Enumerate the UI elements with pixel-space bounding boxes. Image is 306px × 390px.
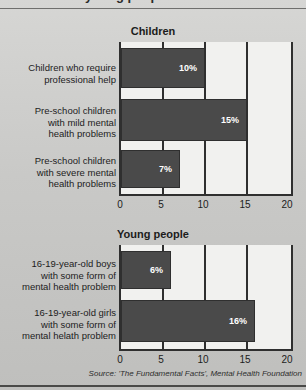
label-line: with some form of xyxy=(0,270,116,282)
top-divider xyxy=(0,8,306,9)
label-line: with mild mental xyxy=(0,117,116,129)
x-tick-label: 20 xyxy=(281,199,292,210)
bar-children-0: 10% xyxy=(121,48,205,88)
x-tick-label: 15 xyxy=(239,199,250,210)
cut-off-headline: children and young people xyxy=(0,0,306,8)
x-axis-children: 0 5 10 15 20 xyxy=(119,199,293,213)
category-label-children-2: Pre-school children with severe mental h… xyxy=(0,155,116,190)
plot-area-children: 10% 15% 7% xyxy=(119,42,293,196)
x-tick-label: 0 xyxy=(117,354,123,365)
category-label-children-1: Pre-school children with mild mental hea… xyxy=(0,105,116,140)
label-line: with severe mental xyxy=(0,167,116,179)
source-note: Source: 'The Fundamental Facts', Mental … xyxy=(89,369,302,378)
label-line: Children who require xyxy=(0,62,116,74)
label-line: 16-19-year-old boys xyxy=(0,258,116,270)
label-line: professional help xyxy=(0,74,116,86)
label-line: health problems xyxy=(0,128,116,140)
x-tick-label: 10 xyxy=(197,199,208,210)
bar-young-1: 16% xyxy=(121,300,255,342)
headline-text: children and young people xyxy=(0,0,306,4)
plot-area-young: 6% 16% xyxy=(119,245,293,351)
chart-page: children and young people Children 10% 1… xyxy=(0,0,306,390)
category-label-children-0: Children who require professional help xyxy=(0,62,116,85)
label-line: Pre-school children xyxy=(0,105,116,117)
label-line: Pre-school children xyxy=(0,155,116,167)
x-tick-label: 5 xyxy=(158,199,164,210)
x-tick-label: 10 xyxy=(197,354,208,365)
bar-children-1: 15% xyxy=(121,99,247,141)
x-tick-label: 5 xyxy=(158,354,164,365)
x-tick-label: 20 xyxy=(281,354,292,365)
chart-title-children: Children xyxy=(0,25,306,37)
category-label-young-1: 16-19-year-old girls with some form of m… xyxy=(0,307,116,342)
bar-value-label: 16% xyxy=(229,317,254,326)
bar-value-label: 15% xyxy=(221,116,246,125)
bar-children-2: 7% xyxy=(121,150,180,188)
category-label-young-0: 16-19-year-old boys with some form of me… xyxy=(0,258,116,293)
label-line: with some form of xyxy=(0,319,116,331)
bar-value-label: 10% xyxy=(179,64,204,73)
label-line: mental helath problem xyxy=(0,330,116,342)
bottom-divider xyxy=(0,385,306,387)
x-tick-label: 0 xyxy=(117,199,123,210)
bar-young-0: 6% xyxy=(121,251,171,289)
x-tick-label: 15 xyxy=(239,354,250,365)
label-line: 16-19-year-old girls xyxy=(0,307,116,319)
chart-title-young: Young people xyxy=(0,228,306,240)
label-line: mental health problem xyxy=(0,281,116,293)
x-axis-young: 0 5 10 15 20 xyxy=(119,354,293,368)
label-line: health problems xyxy=(0,178,116,190)
bar-value-label: 6% xyxy=(150,266,170,275)
bar-value-label: 7% xyxy=(159,165,179,174)
